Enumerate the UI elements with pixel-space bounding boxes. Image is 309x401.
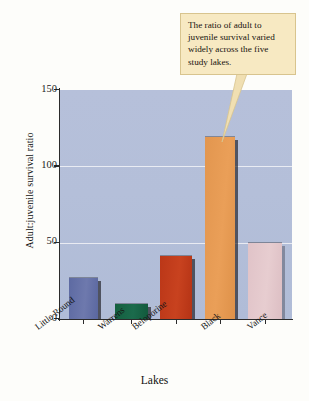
bar-top-edge — [69, 277, 98, 278]
bar-top-edge — [205, 136, 235, 137]
bar-side-shadow — [235, 140, 238, 319]
bar-black — [205, 137, 235, 319]
annotation-callout: The ratio of adult to juvenile survival … — [180, 13, 296, 75]
bar-vance — [248, 243, 282, 319]
bar-side-shadow — [282, 246, 285, 319]
y-axis-line — [59, 88, 60, 321]
figure-container: 150 100 50 0 Little Round Warrens Belopo… — [0, 0, 309, 401]
bar-face — [160, 256, 192, 319]
bar-face — [248, 243, 282, 319]
bar-side-shadow — [98, 281, 101, 319]
bar-top-edge — [160, 255, 192, 256]
x-tick-mark-beloporine — [176, 320, 177, 324]
bar-side-shadow — [192, 259, 195, 319]
gridline-100 — [60, 166, 292, 167]
x-tick-mark-black — [220, 320, 221, 324]
x-tick-mark-little-round — [83, 320, 84, 324]
y-axis-title: Adult:juvenile survival ratio — [24, 101, 35, 281]
bar-top-edge — [248, 242, 282, 243]
x-axis-title: Lakes — [0, 374, 309, 386]
bar-beloporine — [160, 256, 192, 319]
bar-face — [205, 137, 235, 319]
y-tick-label-150: 150 — [17, 84, 57, 95]
